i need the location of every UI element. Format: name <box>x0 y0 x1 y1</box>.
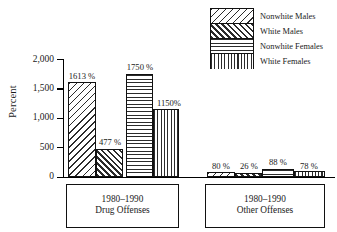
legend-swatch-nonwhite-females <box>211 39 253 54</box>
bar-drug-white-females <box>153 109 179 177</box>
category-other-line1: 1980–1990 <box>206 194 324 205</box>
category-box-drug-offenses: 1980–1990 Drug Offenses <box>66 184 179 228</box>
y-tick-1000 <box>57 118 63 119</box>
legend-label-white-females: White Females <box>260 58 310 66</box>
bar-drug-nonwhite-females <box>126 74 153 177</box>
bar-label-other-nonwhite-females: 88 % <box>263 158 293 167</box>
bar-label-drug-white-females: 1150% <box>152 99 186 108</box>
y-tick-500 <box>57 147 63 148</box>
y-tick-label-0: 0 <box>14 172 54 182</box>
bar-label-other-white-males: 26 % <box>234 162 264 171</box>
bar-label-drug-nonwhite-males: 1613 % <box>64 72 100 81</box>
y-tick-0 <box>57 177 63 178</box>
legend-swatch-white-females <box>211 54 253 69</box>
legend-label-nonwhite-males: Nonwhite Males <box>260 13 316 21</box>
bar-drug-white-males <box>96 149 123 177</box>
legend-swatch-box <box>210 8 254 69</box>
bar-label-other-white-females: 78 % <box>294 162 324 171</box>
bar-label-other-nonwhite-males: 80 % <box>206 162 236 171</box>
bar-label-drug-white-males: 477 % <box>94 138 126 147</box>
legend-label-white-males: White Males <box>260 28 303 36</box>
y-tick-label-2000: 2,000 <box>14 55 54 65</box>
bar-drug-nonwhite-males <box>68 82 96 177</box>
bar-other-nonwhite-females <box>262 169 294 177</box>
legend-label-nonwhite-females: Nonwhite Females <box>260 43 323 51</box>
y-tick-label-1000: 1,000 <box>14 113 54 123</box>
bar-label-drug-nonwhite-females: 1750 % <box>122 63 158 72</box>
x-axis-baseline <box>63 177 335 178</box>
y-tick-1500 <box>57 88 63 89</box>
legend-swatch-white-males <box>211 24 253 39</box>
y-tick-2000 <box>57 59 63 60</box>
y-tick-label-500: 500 <box>14 143 54 153</box>
y-tick-label-1500: 1,500 <box>14 84 54 94</box>
category-drug-line2: Drug Offenses <box>67 205 178 216</box>
category-other-line2: Other Offenses <box>206 205 324 216</box>
legend-swatch-nonwhite-males <box>211 9 253 24</box>
category-drug-line1: 1980–1990 <box>67 194 178 205</box>
legend: Nonwhite Males White Males Nonwhite Fema… <box>210 8 335 70</box>
category-box-other-offenses: 1980–1990 Other Offenses <box>205 184 325 228</box>
bar-other-nonwhite-males <box>207 172 235 177</box>
bar-chart: Percent 2,000 1,500 1,000 500 0 1613 % 4… <box>0 0 337 232</box>
bar-other-white-females <box>294 171 325 177</box>
bar-other-white-males <box>235 173 262 177</box>
